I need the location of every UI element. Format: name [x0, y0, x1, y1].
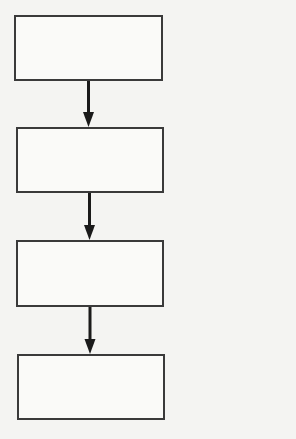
arrow-down-icon: [85, 307, 96, 354]
arrow-down-icon: [83, 81, 94, 127]
flowchart-canvas: [0, 0, 296, 439]
arrow-down-icon: [84, 193, 95, 240]
flowchart-arrows: [0, 0, 296, 439]
